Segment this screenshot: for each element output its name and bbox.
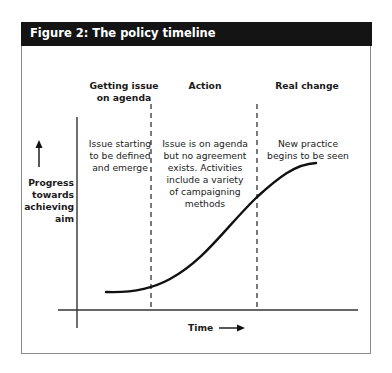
arrow-up-icon <box>36 140 43 167</box>
phase-heading-2: Action <box>170 80 240 92</box>
phase-heading-1: Getting issue on agenda <box>84 80 164 104</box>
x-axis-label: Time <box>188 322 213 333</box>
phase-heading-3: Real change <box>262 80 352 92</box>
arrow-right-icon <box>219 325 245 332</box>
y-axis-label: Progress towards achieving aim <box>24 177 74 225</box>
phase-description-3: New practice begins to be seen <box>258 138 358 162</box>
phase-description-2: Issue is on agenda but no agreement exis… <box>155 138 255 210</box>
phase-description-1: Issue starting to be defined and emerge <box>80 138 160 174</box>
